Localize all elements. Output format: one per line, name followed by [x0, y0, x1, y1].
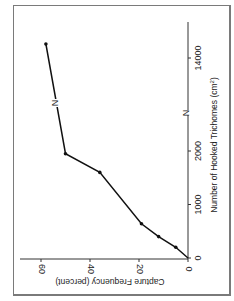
capture-frequency-chart: 0204060 01000200014000 N N Number of Hoo… — [0, 0, 234, 301]
y-tick-label: 60 — [37, 264, 47, 274]
x-tick-label: 0 — [193, 255, 203, 260]
series-line — [46, 44, 188, 258]
y-tick-label: 0 — [184, 266, 194, 271]
axis-break-marker: N — [181, 110, 191, 117]
data-point — [174, 246, 178, 250]
x-tick-label: 14000 — [193, 45, 203, 70]
line-break-marker: N — [50, 100, 60, 107]
y-axis-title: Capture Frequency (percent) — [55, 277, 164, 287]
y-tick-label: 40 — [86, 264, 96, 274]
data-series: N — [44, 42, 188, 258]
x-tick-label: 2000 — [193, 141, 203, 161]
data-point — [44, 42, 48, 46]
data-point — [64, 152, 68, 156]
data-point — [157, 235, 161, 239]
x-axis-ticks: 01000200014000 — [188, 45, 203, 260]
x-tick-label: 1000 — [193, 194, 203, 214]
data-point — [140, 222, 144, 226]
y-tick-label: 20 — [135, 264, 145, 274]
x-axis-title: Number of Hooked Trichomes (cm2) — [209, 77, 220, 213]
data-point — [98, 171, 102, 175]
y-axis-ticks: 0204060 — [37, 259, 194, 274]
